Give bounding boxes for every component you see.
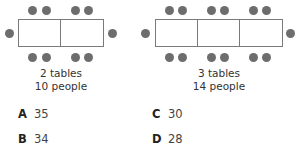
person-dot <box>262 6 271 15</box>
person-dot <box>108 29 117 38</box>
person-dot <box>28 6 37 15</box>
answer-option-c[interactable]: C30 <box>152 107 183 121</box>
person-dot <box>42 53 51 62</box>
caption-tables: 3 tables <box>155 67 283 80</box>
person-dot <box>28 53 37 62</box>
caption: 3 tables 14 people <box>155 67 283 93</box>
person-dot <box>42 6 51 15</box>
caption: 2 tables 10 people <box>18 67 104 93</box>
person-dot <box>249 53 258 62</box>
person-dot <box>84 53 93 62</box>
answer-option-a[interactable]: A35 <box>18 107 49 121</box>
table <box>198 20 240 46</box>
table-row-2 <box>18 19 104 47</box>
answer-option-d[interactable]: D28 <box>152 132 183 146</box>
person-dot <box>262 53 271 62</box>
person-dot <box>220 53 229 62</box>
table <box>61 20 103 46</box>
person-dot <box>207 53 216 62</box>
person-dot <box>5 29 14 38</box>
person-dot <box>71 53 80 62</box>
person-dot <box>84 6 93 15</box>
option-value: 28 <box>168 132 183 146</box>
person-dot <box>71 6 80 15</box>
person-dot <box>141 29 150 38</box>
option-letter: A <box>18 107 34 121</box>
option-letter: C <box>152 107 168 121</box>
table <box>19 20 61 46</box>
option-letter: D <box>152 132 168 146</box>
answer-option-b[interactable]: B34 <box>18 132 49 146</box>
option-value: 34 <box>34 132 49 146</box>
option-value: 35 <box>34 107 49 121</box>
table-row-3 <box>155 19 283 47</box>
person-dot <box>286 29 295 38</box>
person-dot <box>165 53 174 62</box>
person-dot <box>165 6 174 15</box>
person-dot <box>207 6 216 15</box>
person-dot <box>178 53 187 62</box>
person-dot <box>178 6 187 15</box>
caption-people: 10 people <box>18 80 104 93</box>
caption-tables: 2 tables <box>18 67 104 80</box>
option-letter: B <box>18 132 34 146</box>
person-dot <box>249 6 258 15</box>
person-dot <box>220 6 229 15</box>
caption-people: 14 people <box>155 80 283 93</box>
table <box>240 20 282 46</box>
option-value: 30 <box>168 107 183 121</box>
table <box>156 20 198 46</box>
